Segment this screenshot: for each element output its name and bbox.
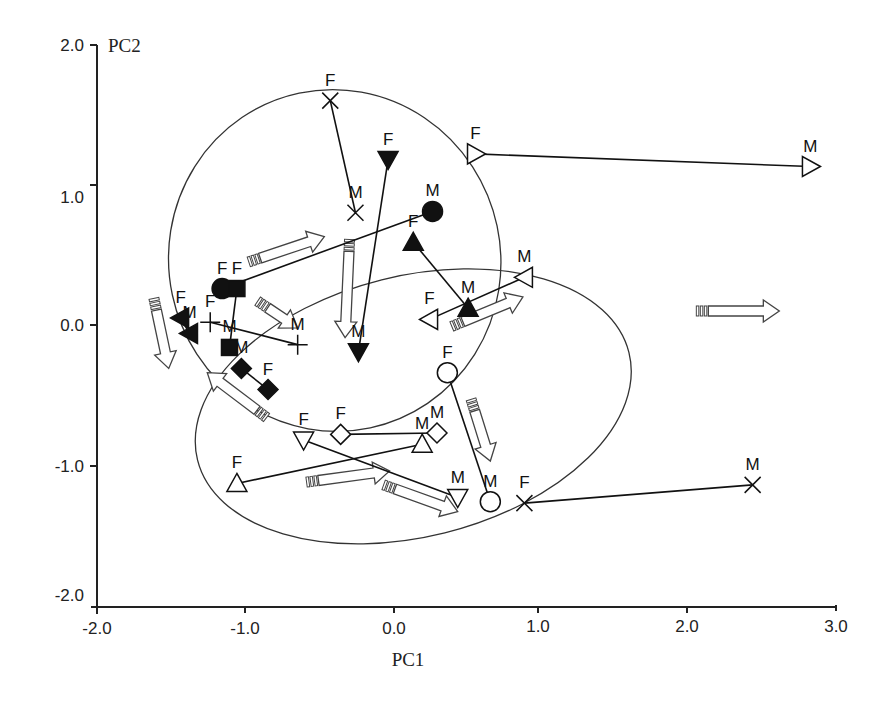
triangle-down-male-marker-icon [348,344,368,362]
plus-male-marker-icon [288,335,308,355]
x-tick-label: -2.0 [82,619,111,638]
male-point-label: M [348,183,362,202]
male-point-label: M [415,414,429,433]
male-point-label: M [483,472,497,491]
triangle-left-male-marker-icon [514,267,532,287]
movement-arrow-icon [143,296,179,371]
female-point-label: F [263,360,273,379]
male-point-label: M [430,403,444,422]
female-point-label: F [470,124,480,143]
diamond-female-marker-icon [331,424,351,444]
y-tick-label: 2.0 [60,36,84,55]
male-point-label: M [182,303,196,322]
male-point-label: M [425,181,439,200]
male-point-label: M [746,455,760,474]
triangle-down-female-marker-icon [378,152,398,170]
female-point-label: F [424,289,434,308]
female-point-label: F [232,259,242,278]
pair-connector-line [524,485,752,503]
y-tick-label: 1.0 [60,188,84,207]
male-point-label: M [351,322,365,341]
cross-male-marker-icon [347,205,363,221]
movement-arrow-icon [305,460,391,493]
x-axis-title: PC1 [392,649,425,670]
female-point-label: F [519,473,529,492]
female-point-label: F [442,343,452,362]
triangle-left-female-marker-icon [420,309,438,329]
female-point-label: F [232,453,242,472]
y-tick-label: 0.0 [60,316,84,335]
point-labels: FMFMFMFMFMFMFMFMFMFMFMFMFMFMFM [175,71,817,493]
square-female-marker-icon [229,281,245,297]
triangle-up-male-marker-icon [412,434,432,452]
female-point-label: F [335,404,345,423]
pca-scatter-chart: FMFMFMFMFMFMFMFMFMFMFMFMFMFMFM 2.0 1.0 0… [0,0,890,701]
movement-arrow-icon [696,300,779,322]
female-point-label: F [325,71,335,90]
male-point-label: M [517,247,531,266]
x-tick-label: -1.0 [230,619,259,638]
male-point-label: M [291,315,305,334]
pair-connector-line [304,440,458,498]
triangle-down-female-marker-icon [294,432,314,450]
female-point-label: F [383,130,393,149]
plus-female-marker-icon [200,312,220,332]
triangle-right-male-marker-icon [802,157,820,177]
pair-connector-line [222,211,432,288]
x-tick-label: 1.0 [526,617,550,636]
male-point-label: M [451,468,465,487]
y-axis-title: PC2 [108,35,141,56]
x-tick-label: 0.0 [382,619,406,638]
x-tick-label: 3.0 [824,617,848,636]
y-tick-label: -2.0 [55,586,84,605]
circle-male-marker-icon [480,492,500,512]
diamond-male-marker-icon [231,358,251,378]
movement-arrow-icon [380,475,462,522]
x-tick-label: 2.0 [675,617,699,636]
female-point-label: F [205,292,215,311]
male-point-label: M [461,278,475,297]
female-point-label: F [217,259,227,278]
male-point-label: M [234,338,248,357]
male-point-label: M [222,317,236,336]
triangle-right-female-marker-icon [468,144,486,164]
pair-connector-line [476,154,811,167]
circle-female-marker-icon [437,363,457,383]
pair-connector-line [413,242,468,308]
cross-female-marker-icon [322,93,338,109]
y-tick-label: -1.0 [55,457,84,476]
x-axis: -2.0 -1.0 0.0 1.0 2.0 3.0 PC1 [82,605,847,670]
diamond-female-marker-icon [258,380,278,400]
male-point-label: M [803,137,817,156]
triangle-up-female-marker-icon [403,232,423,250]
circle-male-marker-icon [423,201,443,221]
female-point-label: F [298,410,308,429]
y-axis: 2.0 1.0 0.0 -1.0 -2.0 PC2 [55,35,141,607]
female-point-label: F [408,212,418,231]
diamond-male-marker-icon [427,423,447,443]
